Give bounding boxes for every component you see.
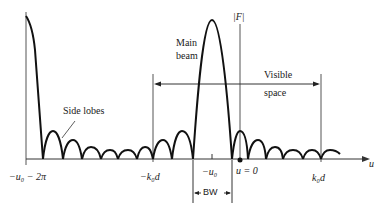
origin-dot — [238, 158, 243, 163]
side-lobes-label: Side lobes — [63, 106, 104, 116]
f-axis-label: |F| — [233, 12, 245, 22]
tick-minus-k0d: −k₀d — [140, 172, 160, 182]
arrow-left-icon — [154, 82, 161, 87]
main-beam-label: Main — [176, 38, 197, 48]
tick-left-limit: −u₀ − 2π — [9, 172, 46, 182]
bw-arrow-left-icon — [194, 191, 199, 195]
bandwidth-label: BW — [203, 188, 218, 197]
tick-k0d: k₀d — [312, 173, 325, 183]
visible-space-label-2: space — [264, 88, 286, 98]
u-axis-label: u — [369, 159, 374, 169]
side-lobes-leader — [62, 121, 75, 138]
arrow-right-icon — [313, 82, 320, 87]
bw-arrow-right-icon — [226, 191, 231, 195]
tick-minus-u0: −u₀ — [202, 167, 217, 177]
tick-u-zero: u = 0 — [236, 166, 258, 176]
main-beam-label-2: beam — [176, 51, 198, 61]
visible-space-label: Visible — [264, 70, 292, 80]
